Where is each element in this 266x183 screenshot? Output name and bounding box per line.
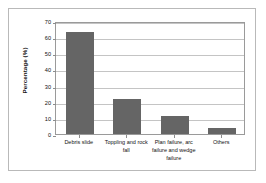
- bar[interactable]: [66, 32, 94, 134]
- bar-slot: [199, 23, 247, 134]
- x-axis-labels: Debris slideToppling and rock fallPlan f…: [55, 138, 245, 170]
- y-tick-label: 0: [48, 133, 51, 139]
- x-tick-mark: [174, 135, 175, 138]
- bar-slot: [104, 23, 152, 134]
- bar[interactable]: [161, 116, 189, 134]
- y-tick-label: 70: [45, 20, 51, 26]
- bar-chart: Percentage (%) 010203040506070 Debris sl…: [9, 9, 257, 172]
- bar-slot: [151, 23, 199, 134]
- y-tick-label: 10: [45, 117, 51, 123]
- x-axis-label: Toppling and rock fall: [103, 139, 151, 155]
- y-tick-label: 30: [45, 85, 51, 91]
- x-tick-mark: [79, 135, 80, 138]
- y-tick-label: 40: [45, 69, 51, 75]
- x-axis-label: Plan failure, arc failure and wedge fail…: [150, 139, 198, 163]
- y-tick-mark: [53, 136, 56, 137]
- x-tick-mark: [221, 135, 222, 138]
- bars-group: [56, 23, 244, 134]
- y-tick-label: 60: [45, 36, 51, 42]
- y-axis-title: Percentage (%): [21, 33, 28, 109]
- bar[interactable]: [208, 128, 236, 134]
- plot-area: 010203040506070: [55, 22, 245, 135]
- x-axis-label: Debris slide: [55, 139, 103, 147]
- x-axis-label: Others: [198, 139, 246, 147]
- x-tick-mark: [126, 135, 127, 138]
- figure-frame: Percentage (%) 010203040506070 Debris sl…: [8, 8, 256, 171]
- y-tick-label: 50: [45, 52, 51, 58]
- bar[interactable]: [113, 99, 141, 135]
- bar-slot: [56, 23, 104, 134]
- y-tick-label: 20: [45, 101, 51, 107]
